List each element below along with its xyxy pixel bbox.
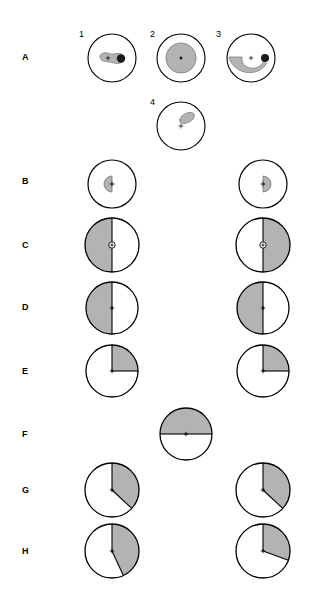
- panel-B-left: [88, 160, 136, 208]
- diagram-svg: [0, 0, 312, 597]
- panel-D-right: [237, 282, 289, 334]
- panel-G-right: [236, 463, 290, 517]
- panel-number-4: 4: [150, 98, 155, 107]
- row-label-g: G: [22, 486, 29, 495]
- row-label-d: D: [22, 303, 29, 312]
- panel-A-2: [157, 34, 205, 82]
- row-label-e: E: [22, 367, 28, 376]
- gray-sector: [160, 408, 212, 434]
- gray-sector: [112, 463, 139, 508]
- gray-sector: [85, 218, 112, 272]
- center-dot: [180, 57, 183, 60]
- gray-sector: [86, 282, 112, 334]
- figure-canvas: A B C D E F G H 1 2 3 4: [0, 0, 312, 597]
- row-label-b: B: [22, 177, 29, 186]
- panel-E-right: [237, 345, 289, 397]
- gray-sector: [263, 524, 290, 560]
- gray-sector: [112, 524, 139, 575]
- panel-A-4: [157, 102, 205, 150]
- panel-C-right: [236, 218, 290, 272]
- row-label-c: C: [22, 241, 29, 250]
- panel-G-left: [85, 463, 139, 517]
- row-label-h: H: [22, 547, 29, 556]
- panel-number-1: 1: [79, 30, 84, 39]
- panel-C-left: [85, 218, 139, 272]
- row-label-f: F: [22, 430, 28, 439]
- panel-number-3: 3: [216, 30, 221, 39]
- panel-F-center: [160, 408, 212, 460]
- panel-E-left: [86, 345, 138, 397]
- gray-sector: [237, 282, 263, 334]
- panel-A-1: [88, 34, 136, 82]
- panel-A-3: [227, 34, 275, 82]
- panel-H-left: [85, 524, 139, 578]
- gray-sector: [263, 218, 290, 272]
- panel-B-right: [239, 160, 287, 208]
- panel-number-2: 2: [150, 30, 155, 39]
- panel-H-right: [236, 524, 290, 578]
- panel-D-left: [86, 282, 138, 334]
- stimulus-dot: [261, 54, 269, 62]
- gray-sector: [263, 463, 290, 508]
- stimulus-dot: [117, 54, 125, 62]
- row-label-a: A: [22, 53, 29, 62]
